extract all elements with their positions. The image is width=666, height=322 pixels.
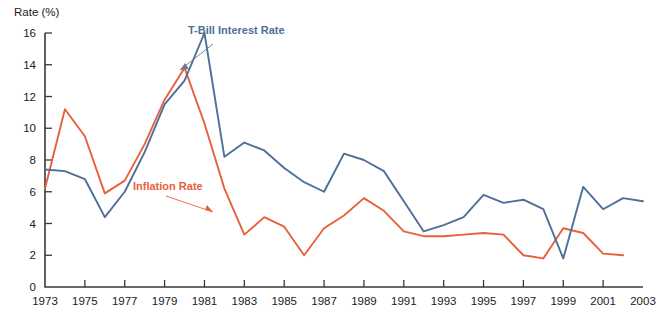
x-tick-label: 1975 <box>72 295 98 307</box>
chart-container: 0246810121416 19731975197719791981198319… <box>0 0 666 322</box>
x-tick-label: 1983 <box>232 295 258 307</box>
y-tick-label: 12 <box>23 91 36 103</box>
y-tick-label: 6 <box>30 186 36 198</box>
y-axis-title: Rate (%) <box>14 6 60 18</box>
y-tick-label: 10 <box>23 122 36 134</box>
x-tick-label: 1993 <box>431 295 457 307</box>
y-tick-label: 2 <box>30 249 36 261</box>
x-tick-label: 1979 <box>152 295 178 307</box>
tbill-annotation-label: T-Bill Interest Rate <box>188 24 285 36</box>
y-tick-label: 14 <box>23 59 36 71</box>
x-tick-label: 1981 <box>192 295 218 307</box>
x-tick-label: 1985 <box>271 295 297 307</box>
x-tick-label: 1991 <box>391 295 417 307</box>
x-tick-label: 1995 <box>471 295 497 307</box>
x-tick-label: 1977 <box>112 295 138 307</box>
x-tick-label: 1997 <box>511 295 537 307</box>
x-tick-label: 1987 <box>311 295 337 307</box>
x-tick-label: 2003 <box>630 295 656 307</box>
x-tick-label: 2001 <box>590 295 616 307</box>
rate-line-chart: 0246810121416 19731975197719791981198319… <box>0 0 666 322</box>
inflation-annotation-label: Inflation Rate <box>133 180 203 192</box>
y-tick-label: 8 <box>30 154 36 166</box>
x-tick-label: 1989 <box>351 295 377 307</box>
x-tick-label: 1973 <box>32 295 58 307</box>
y-tick-label: 4 <box>30 218 37 230</box>
bottom-margin-strip <box>0 312 666 322</box>
y-tick-label: 0 <box>30 281 36 293</box>
y-tick-label: 16 <box>23 27 36 39</box>
chart-background <box>0 0 666 322</box>
x-tick-label: 1999 <box>550 295 576 307</box>
